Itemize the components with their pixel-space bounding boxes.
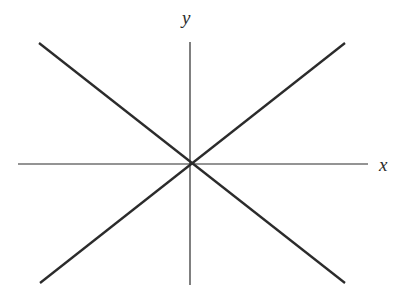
coordinate-plane-svg: [0, 0, 410, 300]
x-axis-label: x: [379, 155, 387, 174]
graph-figure: y x: [0, 0, 410, 300]
y-axis-label: y: [182, 8, 190, 27]
